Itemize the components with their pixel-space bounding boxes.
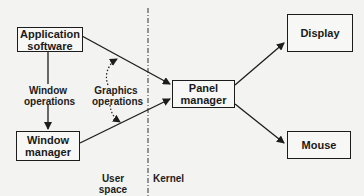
architecture-diagram: Application software Window manager Pane… [0, 0, 364, 196]
user-space-label: User space [88, 173, 138, 195]
window-operations-line2: operations [24, 96, 72, 107]
graphics-operations-label: Graphics operations [92, 85, 140, 107]
window-operations-label: Window operations [24, 85, 72, 107]
window-manager-box: Window manager [16, 131, 80, 161]
display-box: Display [287, 14, 353, 52]
panel-manager-line1: Panel [181, 82, 227, 94]
application-software-box: Application software [17, 27, 83, 52]
application-software-line2: software [20, 40, 80, 52]
graphics-operations-line1: Graphics [92, 85, 140, 96]
panel-manager-line2: manager [181, 94, 227, 106]
application-software-line1: Application [20, 28, 80, 40]
window-manager-line2: manager [25, 146, 71, 158]
kernel-label: Kernel [153, 173, 185, 184]
window-operations-line1: Window [24, 85, 72, 96]
mouse-label: Mouse [302, 139, 337, 151]
display-label: Display [300, 27, 339, 39]
panel-manager-box: Panel manager [172, 80, 235, 108]
graphics-operations-line2: operations [92, 96, 140, 107]
mouse-box: Mouse [287, 131, 351, 159]
window-manager-line1: Window [25, 134, 71, 146]
